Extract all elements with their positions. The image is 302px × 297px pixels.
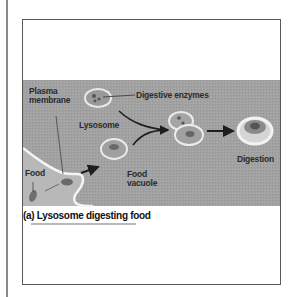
lysosome-diagram: Plasma membrane Digestive enzymes Lysoso… <box>23 20 280 284</box>
label-digestion: Digestion <box>237 155 274 164</box>
label-digestive-enzymes: Digestive enzymes <box>136 91 209 100</box>
label-line: membrane <box>29 96 70 105</box>
figure-frame: Plasma membrane Digestive enzymes Lysoso… <box>22 19 281 285</box>
label-food-vacuole: Food vacuole <box>127 170 157 188</box>
label-lysosome: Lysosome <box>79 121 119 130</box>
label-food: Food <box>25 169 45 178</box>
label-line: vacuole <box>127 179 157 188</box>
label-plasma-membrane: Plasma membrane <box>29 87 70 105</box>
caption-fineprint <box>31 223 136 225</box>
food-particle-engulfed <box>61 179 73 186</box>
figure-caption: (a) Lysosome digesting food <box>23 210 151 221</box>
left-divider-line <box>6 0 8 297</box>
diagram-illustration <box>23 20 280 284</box>
